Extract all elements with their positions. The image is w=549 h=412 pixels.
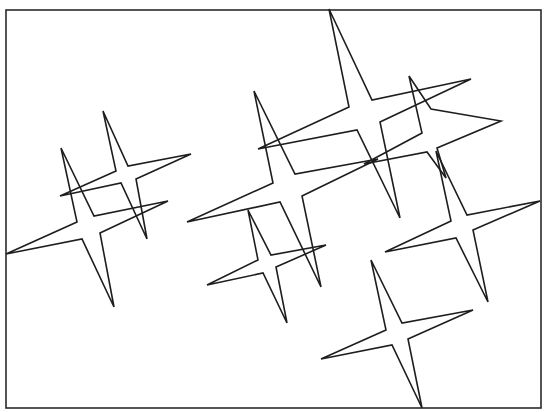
drawing-canvas: [0, 0, 549, 412]
star-e-shape: [258, 9, 471, 218]
star-h-shape: [321, 260, 473, 408]
stars-group: [6, 9, 540, 408]
star-c-shape: [187, 91, 378, 287]
frame-border: [6, 10, 541, 408]
star-f-shape: [364, 76, 501, 178]
star-b-shape: [60, 111, 191, 239]
star-a-shape: [6, 148, 168, 307]
star-g-shape: [385, 151, 540, 302]
